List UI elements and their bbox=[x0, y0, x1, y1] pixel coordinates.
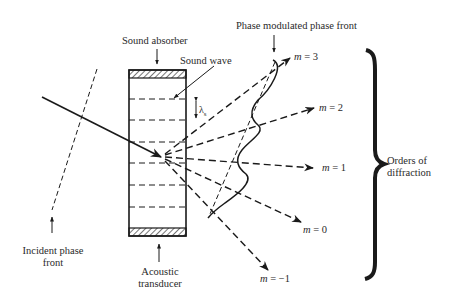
orders-brace bbox=[365, 50, 384, 279]
sound-absorber-label: Sound absorber bbox=[122, 35, 188, 47]
order-label-m1: m = 1 bbox=[322, 162, 346, 174]
diffracted-beams bbox=[165, 58, 314, 270]
incident-phase-front-label: Incident phase front bbox=[20, 245, 86, 269]
acousto-optic-diagram: Sound absorber Sound wave Phase modulate… bbox=[0, 0, 449, 299]
sound-absorber-block bbox=[129, 70, 186, 78]
order-label-m2: m = 2 bbox=[319, 102, 343, 114]
wavelength-label: λs bbox=[199, 104, 207, 120]
incident-beam-arrow-icon bbox=[42, 97, 161, 157]
acoustic-transducer-label: Acoustic transducer bbox=[130, 266, 190, 290]
order-label-m3: m = 3 bbox=[294, 51, 318, 63]
orders-of-diffraction-label: Orders of diffraction bbox=[387, 155, 431, 179]
sound-wave-label: Sound wave bbox=[180, 55, 232, 67]
order-mneg1-arrow-icon bbox=[165, 161, 268, 270]
sound-wavefronts bbox=[129, 99, 186, 207]
order-m2-arrow-icon bbox=[165, 108, 314, 155]
transducer-block bbox=[129, 228, 186, 236]
incident-phase-front bbox=[52, 69, 97, 210]
phase-modulated-front-label: Phase modulated phase front bbox=[236, 20, 357, 32]
order-label-mneg1: m = −1 bbox=[260, 273, 290, 285]
phase-modulated-front bbox=[208, 60, 277, 218]
order-label-m0: m = 0 bbox=[303, 224, 327, 236]
